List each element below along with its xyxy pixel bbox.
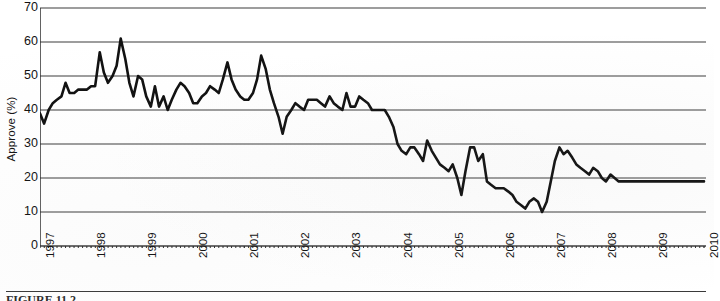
line-chart-svg (40, 6, 706, 248)
x-tick-label-text: 2002 (299, 232, 311, 258)
x-tick-label-text: 2001 (248, 232, 260, 258)
x-tick-label-text: 1998 (95, 232, 107, 258)
x-tick-label-2009: 2009 (646, 258, 660, 298)
series-line-approve (40, 39, 704, 212)
caption-divider (6, 291, 706, 292)
x-tick-label-2008: 2008 (595, 258, 609, 298)
x-tick-label-text: 1997 (44, 232, 56, 258)
y-tick-label-0: 0 (16, 239, 38, 252)
x-tick-label-text: 1999 (146, 232, 158, 258)
x-tick-label-1997: 1997 (33, 258, 47, 298)
y-tick-label-20: 20 (16, 171, 38, 184)
x-tick-label-2000: 2000 (186, 258, 200, 298)
x-tick-label-text: 2004 (402, 232, 414, 258)
figure-caption: FIGURE 11.2 (6, 294, 406, 301)
x-tick-label-text: 2008 (606, 232, 618, 258)
x-tick-label-text: 2007 (555, 232, 567, 258)
y-tick-label-40: 40 (16, 103, 38, 116)
x-tick-label-2001: 2001 (237, 258, 251, 298)
x-tick-label-text: 2009 (657, 232, 669, 258)
y-tick-label-30: 30 (16, 137, 38, 150)
x-tick-label-2010: 2010 (697, 258, 711, 298)
x-tick-label-text: 2006 (504, 232, 516, 258)
y-tick-label-50: 50 (16, 69, 38, 82)
x-tick-label-2005: 2005 (442, 258, 456, 298)
x-tick-label-text: 2000 (197, 232, 209, 258)
x-tick-label-2004: 2004 (391, 258, 405, 298)
x-tick-label-1999: 1999 (135, 258, 149, 298)
x-tick-label-text: 2010 (708, 232, 720, 258)
x-tick-label-text: 2005 (453, 232, 465, 258)
x-tick-label-text: 2003 (350, 232, 362, 258)
x-tick-label-2007: 2007 (544, 258, 558, 298)
gridlines (40, 8, 706, 246)
y-axis-tick-labels: 706050403020100 (12, 0, 38, 301)
y-tick-label-60: 60 (16, 35, 38, 48)
plot-area (40, 6, 706, 248)
x-tick-label-2002: 2002 (288, 258, 302, 298)
x-tick-label-2003: 2003 (339, 258, 353, 298)
y-tick-label-70: 70 (16, 1, 38, 14)
x-tick-label-2006: 2006 (493, 258, 507, 298)
x-tick-label-1998: 1998 (84, 258, 98, 298)
y-tick-label-10: 10 (16, 205, 38, 218)
